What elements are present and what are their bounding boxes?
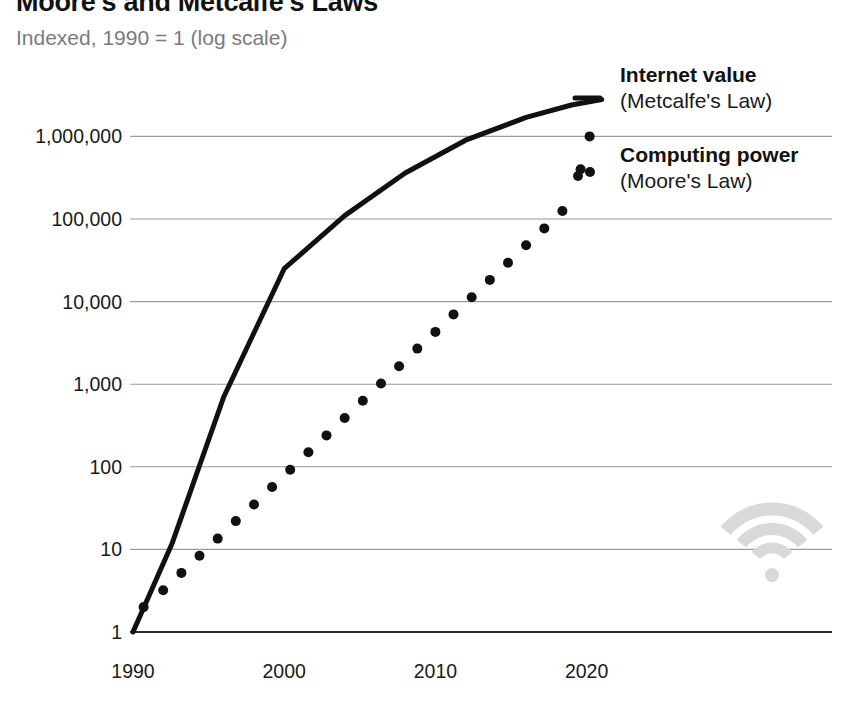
y-tick-label: 10 [2, 538, 122, 561]
y-tick-label: 10,000 [2, 290, 122, 313]
x-tick-label: 2000 [262, 660, 305, 683]
series-computing-power [139, 131, 595, 612]
chart-root: Moore's and Metcalfe's Laws Indexed, 199… [0, 0, 856, 702]
y-tick-label: 1,000 [2, 373, 122, 396]
x-tick-label: 2010 [414, 660, 457, 683]
series-internet-value [133, 100, 602, 633]
y-tick-label: 100,000 [2, 208, 122, 231]
wifi-icon [706, 487, 838, 585]
y-tick-label: 1 [2, 621, 122, 644]
x-tick-label: 1990 [111, 660, 154, 683]
y-axis-labels: 1101001,00010,000100,0001,000,000 [0, 0, 122, 702]
y-tick-label: 100 [2, 455, 122, 478]
legend-item-title: Computing power [620, 142, 798, 167]
y-tick-label: 1,000,000 [2, 125, 122, 148]
x-tick-label: 2020 [565, 660, 608, 683]
legend-item-computing-power: Computing power (Moore's Law) [620, 142, 798, 194]
legend-item-subtitle: (Metcalfe's Law) [620, 87, 772, 114]
legend-item-internet-value: Internet value (Metcalfe's Law) [620, 62, 772, 114]
legend-item-title: Internet value [620, 62, 772, 87]
legend-item-subtitle: (Moore's Law) [620, 167, 798, 194]
